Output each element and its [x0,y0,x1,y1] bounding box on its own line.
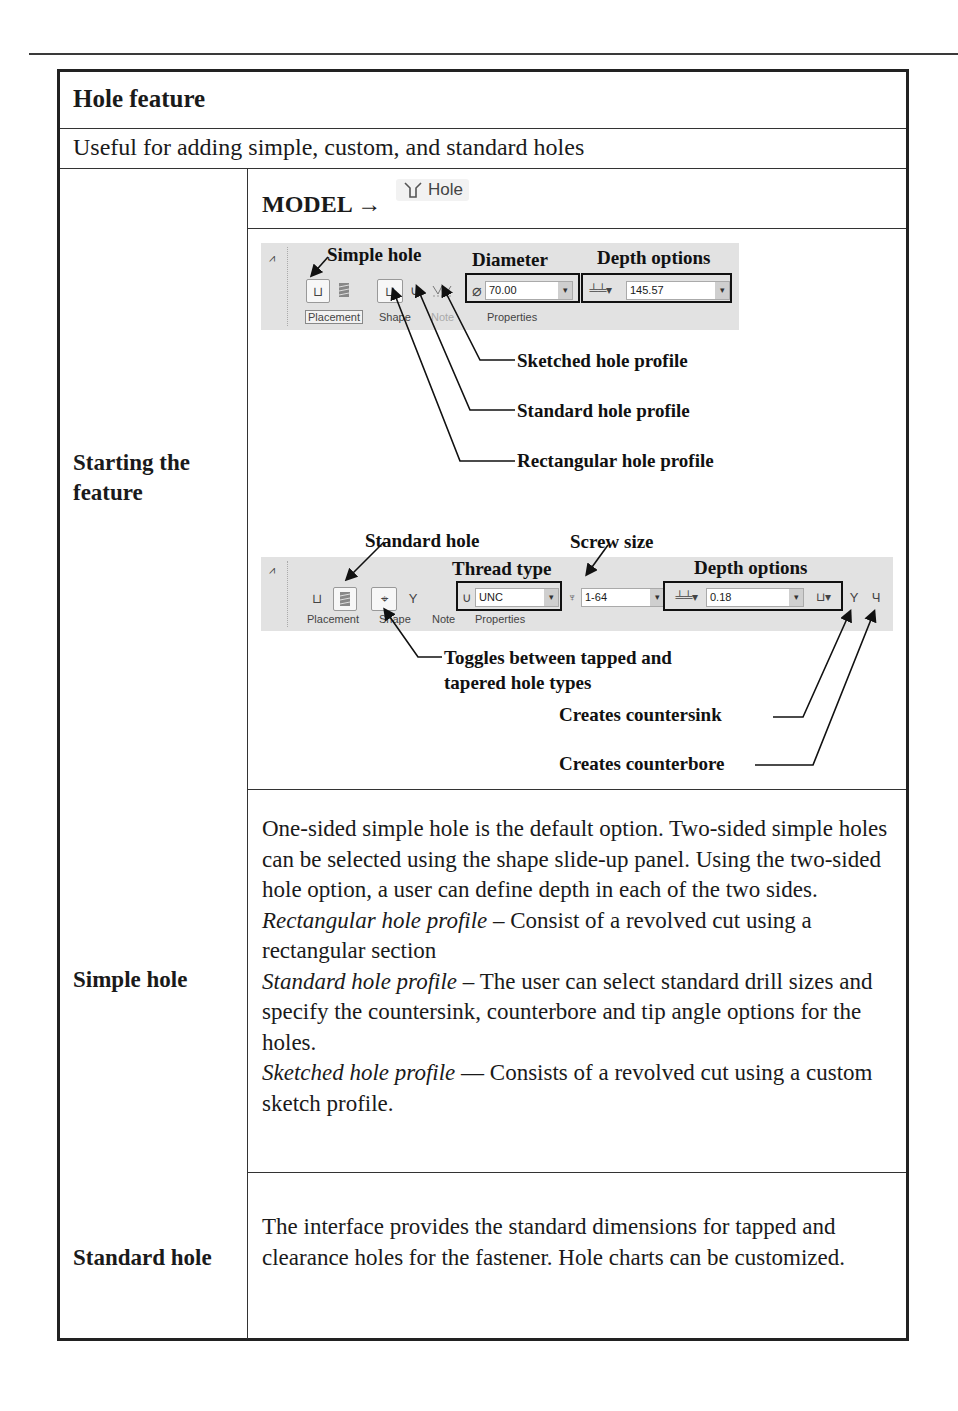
hole-button[interactable]: Hole [396,179,469,201]
annotation-depth-options: Depth options [597,247,711,269]
simple-hole-description: One-sided simple hole is the default opt… [262,814,902,1119]
screw-icon: ♆ [565,588,579,606]
table-title-row: Hole feature [60,72,906,129]
table-subtitle-row: Useful for adding simple, custom, and st… [60,129,906,169]
standard-hole-label: Standard hole [73,1243,212,1273]
screw-size-value: 1-64 [585,591,607,603]
tab-note[interactable]: Note [432,613,455,625]
page-top-rule [29,53,958,55]
divider [287,561,288,627]
annotation-standard-profile: Standard hole profile [517,400,690,422]
simple-hole-button[interactable]: ⊔ [309,587,325,609]
hole-icon [402,180,424,200]
tapped-tapered-toggle[interactable]: ⌖ [371,587,397,611]
tab-properties[interactable]: Properties [487,311,537,323]
threaded-hole-icon [339,591,351,607]
table-subtitle: Useful for adding simple, custom, and st… [73,134,584,161]
annotation-rectangular-profile: Rectangular hole profile [517,450,714,472]
simple-hole-button[interactable]: ⊔ [306,279,330,303]
tab-note[interactable]: Note [431,311,454,323]
tab-shape[interactable]: Shape [379,311,411,323]
annotation-thread-type: Thread type [452,558,551,580]
hole-feature-icon: ⩘ [265,251,279,265]
standard-hole-label-cell: Standard hole [60,1173,248,1339]
starting-label: Starting the feature [73,448,223,508]
standard-hole-button[interactable] [333,587,357,611]
tab-properties[interactable]: Properties [475,613,525,625]
table-title: Hole feature [73,85,205,113]
divider [287,247,288,326]
sketch-profile-term: Sketched hole profile [262,1060,455,1085]
hole-feature-table: Hole feature Useful for adding simple, c… [57,69,909,1341]
annotation-screw-size: Screw size [570,531,654,553]
annotation-simple-hole: Simple hole [327,244,421,266]
annotation-toggle-line2: tapered hole types [444,672,591,694]
standard-profile-button[interactable]: ∪ [407,279,423,301]
standard-hole-description: The interface provides the standard dime… [262,1212,902,1273]
rect-profile-term: Rectangular hole profile [262,908,487,933]
tab-placement[interactable]: Placement [307,613,359,625]
countersink-toggle-icon[interactable]: Y [403,587,423,609]
simple-hole-label-cell: Simple hole [60,790,248,1173]
starting-label-cell: Starting the feature [60,169,248,790]
model-path-row: MODEL → Hole [248,169,906,229]
tab-placement[interactable]: Placement [305,310,363,324]
threaded-hole-icon [338,282,350,298]
standard-hole-button[interactable] [336,279,352,301]
model-path: MODEL → [262,191,381,218]
rectangular-profile-button[interactable]: ⊔ [377,279,403,303]
thread-type-callout-box [456,581,562,611]
diameter-callout-box [465,273,580,303]
annotation-sketched-profile: Sketched hole profile [517,350,688,372]
sketch-profile-icon [432,282,452,298]
sketched-profile-button[interactable] [431,279,453,301]
annotation-standard-hole: Standard hole [365,530,480,552]
std-profile-term: Standard hole profile [262,969,457,994]
annotation-countersink: Creates countersink [559,704,722,726]
annotation-diameter: Diameter [472,249,548,271]
counterbore-button[interactable]: Ч [867,588,885,606]
annotation-toggle-line1: Toggles between tapped and [444,647,672,669]
depth-options-callout-box [663,581,843,611]
simple-hole-p1: One-sided simple hole is the default opt… [262,816,887,902]
tab-shape[interactable]: Shape [379,613,411,625]
annotation-depth-options: Depth options [694,557,808,579]
hole-feature-icon: ⩘ [265,563,279,577]
chevron-down-icon[interactable]: ▾ [650,589,664,606]
hole-button-label: Hole [428,180,463,200]
countersink-button[interactable]: Y [845,588,863,606]
depth-callout-box [581,273,732,303]
simple-hole-label: Simple hole [73,965,187,995]
annotation-counterbore: Creates counterbore [559,753,725,775]
screw-size-select[interactable]: 1-64 ▾ [581,588,665,607]
